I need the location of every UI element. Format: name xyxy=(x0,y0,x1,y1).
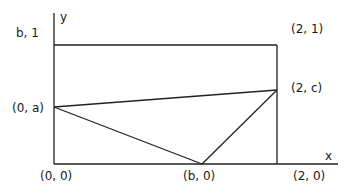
x-axis-label: x xyxy=(325,149,332,163)
label-b-one: b, 1 xyxy=(16,26,39,40)
segment-b-to-c xyxy=(202,90,277,164)
label-two-zero: (2, 0) xyxy=(293,169,325,183)
segment-a-to-b xyxy=(54,107,202,164)
diagram-canvas: y x b, 1 (2, 1) (2, c) (0, a) (0, 0) (b,… xyxy=(0,0,346,190)
label-zero-a: (0, a) xyxy=(12,101,44,115)
label-b-zero: (b, 0) xyxy=(183,169,215,183)
label-two-c: (2, c) xyxy=(291,81,322,95)
segment-a-to-c xyxy=(54,90,277,107)
label-origin: (0, 0) xyxy=(40,169,72,183)
label-two-one: (2, 1) xyxy=(291,22,323,36)
y-axis-label: y xyxy=(60,10,67,24)
